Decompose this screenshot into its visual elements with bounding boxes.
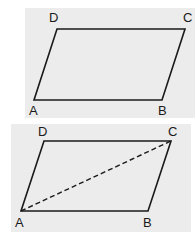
diagonal-ac-line	[21, 141, 171, 211]
vertex-label-a: A	[29, 104, 38, 117]
parallelogram-diagonal-shape	[11, 124, 191, 232]
figure-parallelogram-diagonal-panel: D C A B	[11, 124, 191, 232]
vertex-label-c: C	[168, 125, 177, 138]
vertex-label-a: A	[15, 216, 24, 229]
vertex-label-d: D	[38, 125, 47, 138]
vertex-label-d: D	[49, 11, 58, 24]
figure-parallelogram-panel: D C A B	[25, 8, 195, 118]
vertex-label-c: C	[183, 11, 192, 24]
vertex-label-b: B	[143, 216, 152, 229]
vertex-label-b: B	[158, 104, 167, 117]
